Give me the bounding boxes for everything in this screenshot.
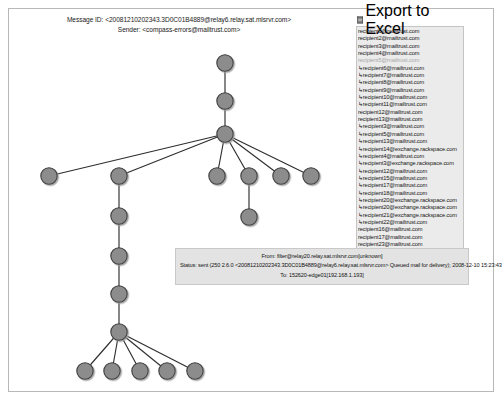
page-frame: Message ID: <20081210202343.3D0C01B4889@… [8,8,494,392]
recipient-address: recipient8@mailtrust.com [363,79,424,85]
recipient-row[interactable]: ↳recipient15@mailtrust.com [358,175,463,182]
recipient-row[interactable]: ↳recipient8@mailtrust.com [358,79,463,86]
excel-spreadsheet-icon [357,16,363,24]
recipient-address: recipient10@mailtrust.com [363,94,427,100]
recipient-address: recipient1@mailtrust.com [358,28,419,34]
recipient-row[interactable]: recipient5@mailtrust.com [358,57,463,64]
recipient-address: recipient7@mailtrust.com [363,72,424,78]
recipient-row[interactable]: ↳recipient12@mailtrust.com [358,168,463,175]
detail-to-line: To: 152620-edge01[192.168.1.193] [180,271,464,280]
recipient-address: recipient17@mailtrust.com [363,182,427,188]
recipient-address: recipient3@mailtrust.com [363,123,424,129]
recipient-address: recipient13@mailtrust.com [363,138,427,144]
recipient-row[interactable]: ↳recipient7@mailtrust.com [358,72,463,79]
recipient-address: recipient3@exchange.rackspace.com [363,160,454,166]
leaf-node[interactable] [104,363,120,379]
recipient-row[interactable]: ↳recipient20@exchange.rackspace.com [358,204,463,211]
recipient-address: recipient21@exchange.rackspace.com [363,212,457,218]
recipient-address: recipient20@exchange.rackspace.com [363,197,457,203]
recipient-address: recipient4@mailtrust.com [363,153,424,159]
recipient-row[interactable]: recipient17@mailtrust.com [358,234,463,241]
recipient-address: recipient12@mailtrust.com [358,109,422,115]
leaf-node[interactable] [209,168,225,184]
leaf-node[interactable] [303,168,319,184]
graph-edge [49,134,225,176]
recipient-address: recipient18@mailtrust.com [363,190,427,196]
recipient-address: recipient23@mailtrust.com [358,241,422,247]
recipient-address: recipient6@mailtrust.com [363,65,424,71]
leaf-node[interactable] [77,363,93,379]
recipient-row[interactable]: ↳recipient9@mailtrust.com [358,87,463,94]
detail-from-line: From: filter@relay20.relay.sat.mlsrvr.co… [180,252,464,261]
detail-status-line: Status: sent (250 2.6.0 <20081210202343.… [180,261,464,270]
export-to-excel-link[interactable]: Export to Excel [356,14,464,25]
recipient-row[interactable]: recipient12@mailtrust.com [358,109,463,116]
recipient-row[interactable]: ↳recipient3@mailtrust.com [358,123,463,130]
recipients-list[interactable]: recipient1@mailtrust.comrecipient2@mailt… [356,26,464,272]
graph-edge [119,332,195,371]
branch-node[interactable] [111,168,127,184]
leaf-node[interactable] [241,209,257,225]
fanout-node[interactable] [111,324,127,340]
recipient-address: recipient3@mailtrust.com [358,43,419,49]
recipient-row[interactable]: ↳recipient6@mailtrust.com [358,65,463,72]
recipient-address: recipient9@mailtrust.com [363,87,424,93]
recipient-row[interactable]: recipient3@mailtrust.com [358,43,463,50]
root-node[interactable] [217,55,233,71]
leaf-node[interactable] [273,168,289,184]
graph-nodes[interactable] [41,55,319,379]
recipient-row[interactable]: ↳recipient17@mailtrust.com [358,182,463,189]
relay-node[interactable] [217,93,233,109]
hub-node[interactable] [217,126,233,142]
recipient-row[interactable]: ↳recipient11@mailtrust.com [358,101,463,108]
recipient-row[interactable]: ↳recipient18@mailtrust.com [358,190,463,197]
recipient-row[interactable]: ↳recipient20@exchange.rackspace.com [358,197,463,204]
recipient-row[interactable]: ↳recipient4@mailtrust.com [358,153,463,160]
leaf-node[interactable] [41,168,57,184]
delivery-detail-tooltip: From: filter@relay20.relay.sat.mlsrvr.co… [175,248,469,285]
leaf-node[interactable] [187,363,203,379]
recipient-row[interactable]: ↳recipient5@mailtrust.com [358,131,463,138]
recipient-address: recipient22@mailtrust.com [363,219,427,225]
graph-edges [49,63,311,371]
recipient-row[interactable]: ↳recipient22@mailtrust.com [358,219,463,226]
recipient-row[interactable]: ↳recipient10@mailtrust.com [358,94,463,101]
recipient-address: recipient16@mailtrust.com [358,226,422,232]
recipient-address: recipient5@mailtrust.com [363,131,424,137]
recipient-address: recipient15@mailtrust.com [363,175,427,181]
recipient-row[interactable]: ↳recipient3@exchange.rackspace.com [358,160,463,167]
chain-node[interactable] [111,208,127,224]
recipient-address: recipient4@mailtrust.com [358,50,419,56]
graph-edge [225,134,311,176]
recipient-address: recipient2@mailtrust.com [358,35,419,41]
chain-node[interactable] [111,248,127,264]
leaf-node[interactable] [132,363,148,379]
recipient-address: recipient20@exchange.rackspace.com [363,204,457,210]
recipient-address: recipient12@mailtrust.com [363,168,427,174]
recipient-row[interactable]: recipient13@mailtrust.com [358,116,463,123]
recipient-address: recipient11@mailtrust.com [363,101,427,107]
branch-node[interactable] [241,168,257,184]
recipient-row[interactable]: ↳recipient14@exchange.rackspace.com [358,146,463,153]
recipient-row[interactable]: recipient4@mailtrust.com [358,50,463,57]
recipients-panel: Export to Excel recipient1@mailtrust.com… [356,14,464,272]
chain-node[interactable] [111,286,127,302]
recipient-row[interactable]: recipient16@mailtrust.com [358,226,463,233]
recipient-address: recipient14@exchange.rackspace.com [363,146,457,152]
recipient-address: recipient13@mailtrust.com [358,116,422,122]
recipient-address: recipient17@mailtrust.com [358,234,422,240]
recipient-row[interactable]: ↳recipient13@mailtrust.com [358,138,463,145]
recipient-row[interactable]: ↳recipient21@exchange.rackspace.com [358,212,463,219]
leaf-node[interactable] [159,363,175,379]
recipient-address: recipient5@mailtrust.com [358,57,419,63]
